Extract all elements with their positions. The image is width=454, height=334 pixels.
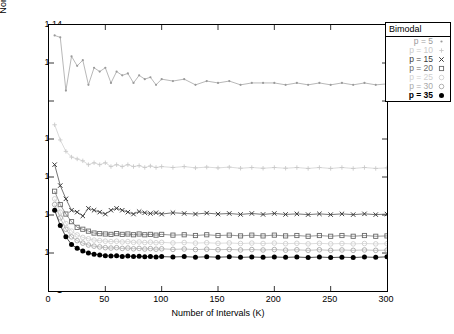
y-axis-label: Normalized Bandwidth Requirement (0, 0, 8, 40)
x-tick-label: 300 (366, 295, 406, 304)
legend-entries: p = 5p = 10p = 15p = 20p = 25p = 30p = 3… (386, 37, 450, 100)
series-p-10 (52, 123, 387, 171)
x-tick-label: 250 (310, 295, 350, 304)
legend-item-p-35[interactable]: p = 35 (386, 91, 450, 100)
legend-item-marker (436, 91, 447, 100)
legend-item-marker (436, 82, 447, 91)
legend-box[interactable]: Bimodal p = 5p = 10p = 15p = 20p = 25p =… (385, 22, 451, 102)
figure-container: Normalized Bandwidth Requirement 11.021.… (0, 0, 454, 334)
legend-item-marker (436, 37, 447, 46)
legend-item-label: p = 35 (409, 91, 433, 100)
legend-item-marker (436, 55, 447, 64)
x-axis-label: Number of Intervals (K) (48, 308, 388, 318)
plot-area (48, 24, 388, 292)
series-canvas (49, 25, 387, 291)
x-tick-label: 100 (141, 295, 181, 304)
x-tick-label: 150 (197, 295, 237, 304)
series-p-15 (52, 162, 387, 218)
legend-item-marker (436, 73, 447, 82)
legend-item-marker (436, 46, 447, 55)
x-tick-label: 200 (253, 295, 293, 304)
series-p-25 (52, 197, 387, 247)
legend-item-marker (436, 64, 447, 73)
x-tick-label: 50 (84, 295, 124, 304)
x-tick-label: 0 (28, 295, 68, 304)
series-p-5 (54, 34, 387, 91)
